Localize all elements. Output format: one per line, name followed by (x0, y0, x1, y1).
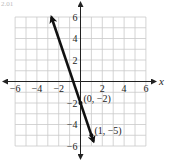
point-marker (89, 133, 93, 137)
x-tick-label: −6 (10, 83, 21, 94)
point-label: (0, −2) (84, 93, 111, 105)
y-tick-label: −2 (67, 98, 78, 109)
x-tick-label: 4 (122, 83, 127, 94)
x-tick-label: −2 (53, 83, 64, 94)
point-label: (1, −5) (94, 125, 121, 137)
y-tick-label: 6 (73, 12, 78, 23)
y-tick-label: 4 (73, 33, 78, 44)
point-marker (79, 101, 83, 105)
x-tick-label: −4 (32, 83, 43, 94)
y-tick-label: 2 (73, 55, 78, 66)
x-tick-label: 6 (143, 83, 148, 94)
x-tick-label: 2 (100, 83, 105, 94)
coordinate-plane: 2.01 −6−4−2246642−2−4−6 x (0, −2)(1, −5) (0, 0, 169, 160)
y-tick-label: −4 (67, 119, 78, 130)
y-tick-label: −6 (67, 141, 78, 152)
corner-text: 2.01 (1, 0, 14, 8)
x-axis-label: x (158, 75, 164, 87)
